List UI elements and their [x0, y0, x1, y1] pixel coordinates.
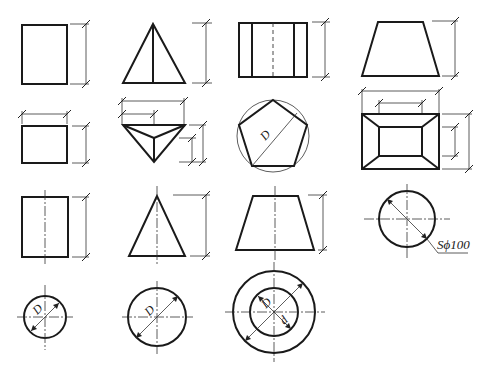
- small-circle-diameter-label: D: [29, 301, 46, 318]
- sphere-view: Sϕ100: [364, 184, 470, 260]
- truncated-cone-top-view: D d: [225, 262, 325, 362]
- pyramid-front-view: [123, 19, 212, 87]
- prism-top-view: [18, 110, 90, 167]
- truncated-cone-front-view: [236, 186, 327, 262]
- cylinder-front-view: [22, 190, 90, 264]
- frustum-front-view: [362, 17, 459, 80]
- pentagon-diameter-label: D: [257, 127, 274, 144]
- frustum-top-view: [358, 87, 473, 173]
- sphere-diameter-label: Sϕ100: [437, 237, 470, 252]
- pentagonal-prism-front-view: [239, 18, 330, 81]
- pyramid-top-view: [118, 97, 207, 166]
- cone-front-view: [129, 186, 210, 264]
- cone-top-view: D: [122, 281, 193, 354]
- technical-drawing: D: [0, 0, 490, 382]
- prism-front-view: [22, 20, 90, 88]
- cylinder-top-view: D: [17, 285, 73, 350]
- pentagonal-prism-top-view: D: [237, 100, 309, 172]
